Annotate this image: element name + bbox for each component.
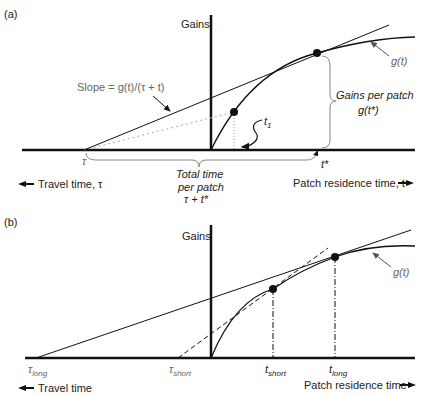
panel-a-label: (a) — [4, 8, 17, 20]
slope-arrow-icon — [153, 96, 170, 111]
curve-arrow-icon — [371, 42, 389, 56]
panel-b-gains-label: Gains — [182, 230, 211, 242]
panel-b-tau-long: τlong — [28, 363, 48, 378]
panel-a-t1-point — [230, 108, 238, 116]
panel-b-tlong-point — [331, 253, 339, 261]
panel-b-t-long: tlong — [329, 363, 348, 378]
panel-a-total-time-3: τ + t* — [184, 193, 209, 205]
panel-b-t-short: tshort — [265, 363, 287, 378]
panel-a-t1-label: t1 — [264, 115, 272, 130]
panel-b-tau-short: τshort — [169, 363, 192, 378]
travel-left-arrow-icon — [18, 181, 34, 187]
panel-a: (a) Gains Slope = g(t)/(τ + t) g(t) t1 G… — [4, 8, 415, 205]
panel-a-curve-label: g(t) — [391, 55, 408, 67]
total-time-brace — [86, 152, 317, 167]
panel-b-curve-arrow-icon — [373, 253, 391, 267]
panel-b-short-tangent — [178, 248, 328, 358]
panel-a-travel-time-label: Travel time, τ — [38, 178, 103, 190]
panel-b-curve-label: g(t) — [393, 266, 410, 278]
panel-b: (b) Gains g(t) τlong τshort tshort tlong… — [4, 216, 416, 394]
panel-a-gains-label: Gains — [181, 18, 210, 30]
panel-a-total-time-2: per patch — [177, 181, 224, 193]
panel-b-tshort-point — [269, 285, 277, 293]
panel-a-residence-time-label: Patch residence time, t — [293, 177, 405, 189]
panel-a-total-time-1: Total time — [176, 168, 223, 180]
panel-b-residence-time-label: Patch residence time — [304, 379, 407, 391]
panel-b-long-tangent — [36, 230, 411, 358]
panel-a-tau-label: τ — [82, 155, 87, 167]
panel-b-label: (b) — [4, 216, 17, 228]
gains-brace — [322, 56, 336, 148]
panel-a-tstar-label: t* — [321, 158, 329, 170]
panel-b-gain-curve — [211, 246, 415, 358]
marginal-value-theorem-diagram: (a) Gains Slope = g(t)/(τ + t) g(t) t1 G… — [0, 0, 421, 395]
panel-a-gains-per-patch: Gains per patch — [336, 89, 414, 101]
panel-a-optimum-point — [313, 49, 321, 57]
panel-a-gains-per-patch-formula: g(t*) — [358, 104, 379, 116]
panel-a-slope-label: Slope = g(t)/(τ + t) — [77, 81, 165, 93]
panel-b-travel-time-label: Travel time — [38, 382, 92, 394]
t1-arrow-icon — [242, 120, 262, 147]
panel-b-travel-left-arrow-icon — [18, 385, 34, 391]
